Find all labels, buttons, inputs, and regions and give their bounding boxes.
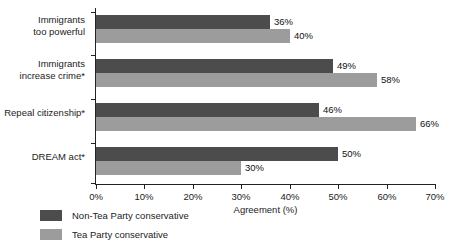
x-axis-tick-3 bbox=[241, 184, 242, 189]
bar-value-series-1-category-1: 58% bbox=[381, 73, 400, 87]
bar-value-series-0-category-2: 46% bbox=[323, 103, 342, 117]
x-axis-tick-6 bbox=[387, 184, 388, 189]
y-axis-tick-1 bbox=[91, 55, 96, 56]
y-axis-tick-0 bbox=[91, 12, 96, 13]
legend-label-0: Non-Tea Party conservative bbox=[72, 210, 189, 221]
x-axis-tick-4 bbox=[290, 184, 291, 189]
y-axis-tick-2 bbox=[91, 99, 96, 100]
x-axis-tick-label-5: 50% bbox=[318, 191, 358, 202]
y-axis-label-0-line-1: too powerful bbox=[0, 26, 85, 38]
x-axis-tick-label-4: 40% bbox=[270, 191, 310, 202]
bar-series-1-category-3 bbox=[96, 161, 241, 175]
bar-series-0-category-1 bbox=[96, 59, 333, 73]
bar-value-series-0-category-1: 49% bbox=[337, 59, 356, 73]
x-axis-tick-label-0: 0% bbox=[76, 191, 116, 202]
plot-area: 36% 40% 49% 58% 46% 66% 50% 30% 0% 10% 2… bbox=[96, 8, 435, 184]
x-axis-tick-label-6: 60% bbox=[367, 191, 407, 202]
x-axis-tick-label-7: 70% bbox=[415, 191, 449, 202]
x-axis-tick-5 bbox=[338, 184, 339, 189]
bar-series-1-category-0 bbox=[96, 29, 290, 43]
x-axis-tick-1 bbox=[144, 184, 145, 189]
bar-value-series-0-category-3: 50% bbox=[342, 147, 361, 161]
bar-series-1-category-2 bbox=[96, 117, 416, 131]
x-axis-tick-label-1: 10% bbox=[124, 191, 164, 202]
bar-series-0-category-0 bbox=[96, 15, 270, 29]
x-axis-line bbox=[95, 184, 436, 185]
chart-legend: Non-Tea Party conservative Tea Party con… bbox=[40, 207, 189, 245]
legend-label-1: Tea Party conservative bbox=[72, 229, 168, 240]
legend-item-1: Tea Party conservative bbox=[40, 226, 189, 242]
y-axis-label-1-line-1: increase crime* bbox=[0, 70, 85, 82]
y-axis-label-1: Immigrants increase crime* bbox=[0, 58, 85, 81]
bar-series-0-category-2 bbox=[96, 103, 319, 117]
y-axis-label-1-line-0: Immigrants bbox=[0, 58, 85, 70]
legend-swatch-icon-1 bbox=[40, 229, 62, 240]
y-axis-label-0-line-0: Immigrants bbox=[0, 14, 85, 26]
y-axis-tick-3 bbox=[91, 143, 96, 144]
y-axis-label-2-line-0: Repeal citizenship* bbox=[0, 107, 85, 119]
y-axis-label-0: Immigrants too powerful bbox=[0, 14, 85, 37]
y-axis-category-labels: Immigrants too powerful Immigrants incre… bbox=[0, 8, 90, 184]
legend-item-0: Non-Tea Party conservative bbox=[40, 207, 189, 223]
x-axis-tick-2 bbox=[193, 184, 194, 189]
legend-swatch-icon-0 bbox=[40, 210, 62, 221]
bar-value-series-1-category-3: 30% bbox=[245, 161, 264, 175]
y-axis-label-3-line-0: DREAM act* bbox=[0, 151, 85, 163]
bar-value-series-1-category-0: 40% bbox=[294, 29, 313, 43]
bar-value-series-1-category-2: 66% bbox=[420, 117, 439, 131]
y-axis-label-3: DREAM act* bbox=[0, 151, 85, 163]
x-axis-tick-label-3: 30% bbox=[221, 191, 261, 202]
bar-value-series-0-category-0: 36% bbox=[274, 15, 293, 29]
x-axis-tick-7 bbox=[435, 184, 436, 189]
bar-series-0-category-3 bbox=[96, 147, 338, 161]
x-axis-tick-0 bbox=[96, 184, 97, 189]
bar-series-1-category-1 bbox=[96, 73, 377, 87]
bar-chart: Immigrants too powerful Immigrants incre… bbox=[0, 0, 449, 252]
x-axis-tick-label-2: 20% bbox=[173, 191, 213, 202]
y-axis-label-2: Repeal citizenship* bbox=[0, 107, 85, 119]
